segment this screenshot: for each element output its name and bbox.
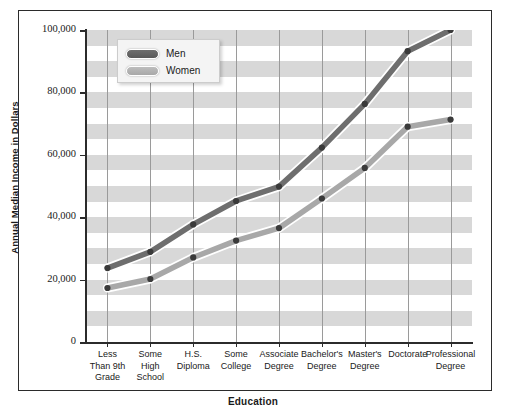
legend-swatch-women [126, 66, 159, 76]
data-point-marker [405, 48, 411, 54]
x-tick-label-line: Degree [328, 361, 402, 373]
y-tick-label: 80,000 [0, 85, 76, 96]
y-tick-mark [80, 342, 85, 344]
data-point-marker [276, 184, 282, 190]
y-tick-mark [80, 30, 85, 32]
x-tick-mark [279, 342, 280, 347]
chart-figure: Annual Median Income in Dollars Educatio… [0, 0, 506, 416]
x-tick-mark [322, 342, 323, 347]
x-tick-mark [193, 342, 194, 347]
legend-label-men: Men [166, 48, 185, 59]
data-point-marker [104, 265, 110, 271]
x-tick-mark [236, 342, 237, 347]
y-axis-line [85, 29, 87, 343]
data-point-marker [104, 285, 110, 291]
data-point-marker [147, 249, 153, 255]
x-tick-label-line: Professional [414, 349, 488, 361]
y-tick-mark [80, 92, 85, 94]
x-tick-mark [451, 342, 452, 347]
legend-item-men: Men [126, 48, 185, 59]
x-tick-label-line: School [113, 372, 187, 384]
data-point-marker [233, 238, 239, 244]
x-tick-label-line: Degree [414, 361, 488, 373]
data-point-marker [447, 116, 453, 122]
chart-legend: Men Women [117, 39, 220, 83]
series-line-halo [107, 120, 450, 288]
data-point-marker [319, 145, 325, 151]
y-tick-mark [80, 217, 85, 219]
x-tick-label: ProfessionalDegree [414, 349, 488, 372]
y-tick-label: 60,000 [0, 148, 76, 159]
y-tick-label: 20,000 [0, 273, 76, 284]
legend-label-women: Women [166, 65, 200, 76]
y-axis-tick-labels: 020,00040,00060,00080,000100,000 [0, 0, 76, 416]
data-point-marker [362, 101, 368, 107]
y-tick-mark [80, 155, 85, 157]
series-line-women [107, 120, 450, 288]
data-point-marker [233, 198, 239, 204]
data-point-marker [276, 225, 282, 231]
data-point-marker [319, 195, 325, 201]
y-tick-label: 100,000 [0, 23, 76, 34]
data-point-marker [405, 124, 411, 130]
legend-item-women: Women [126, 65, 200, 76]
y-tick-mark [80, 280, 85, 282]
x-tick-mark [408, 342, 409, 347]
y-tick-label: 0 [0, 335, 76, 346]
x-tick-mark [365, 342, 366, 347]
data-point-marker [190, 254, 196, 260]
data-point-marker [190, 221, 196, 227]
x-tick-mark [107, 342, 108, 347]
y-tick-label: 40,000 [0, 210, 76, 221]
data-point-marker [362, 165, 368, 171]
data-point-marker [147, 276, 153, 282]
x-tick-mark [150, 342, 151, 347]
legend-swatch-men [126, 49, 159, 59]
